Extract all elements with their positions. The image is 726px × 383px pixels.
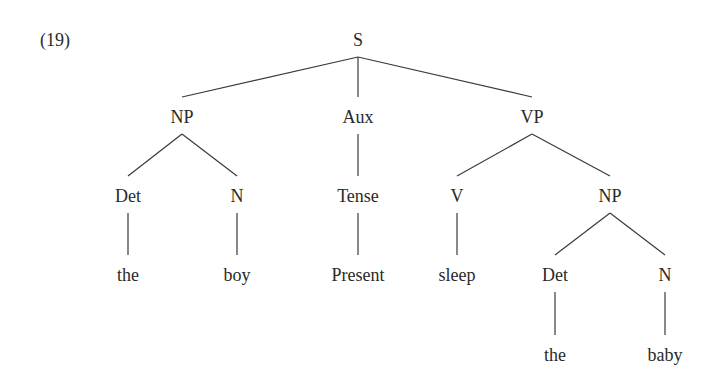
tree-node-present: Present xyxy=(332,265,385,285)
tree-edge-np1-det1 xyxy=(128,134,182,176)
tree-node-aux: Aux xyxy=(343,107,374,127)
tree-node-boy: boy xyxy=(224,265,251,285)
tree-edge-np2-n2 xyxy=(610,213,665,255)
tree-node-the1: the xyxy=(117,265,139,285)
tree-edge-vp-np2 xyxy=(532,134,610,176)
tree-node-det1: Det xyxy=(115,186,141,206)
tree-edge-np1-n1 xyxy=(182,134,237,176)
tree-node-v: V xyxy=(451,186,464,206)
tree-node-n1: N xyxy=(231,186,244,206)
tree-node-sleep: sleep xyxy=(439,265,476,285)
tree-edge-vp-v xyxy=(457,134,532,176)
tree-edge-s-vp xyxy=(358,57,532,97)
tree-edge-np2-det2 xyxy=(555,213,610,255)
tree-node-np2: NP xyxy=(598,186,621,206)
tree-node-det2: Det xyxy=(542,265,568,285)
tree-node-n2: N xyxy=(659,265,672,285)
tree-node-the2: the xyxy=(544,345,566,365)
tree-edge-s-np1 xyxy=(182,57,358,97)
tree-node-vp: VP xyxy=(520,107,543,127)
tree-node-s: S xyxy=(353,30,363,50)
tree-node-tense: Tense xyxy=(337,186,379,206)
tree-node-baby: baby xyxy=(648,345,683,365)
tree-node-np1: NP xyxy=(170,107,193,127)
